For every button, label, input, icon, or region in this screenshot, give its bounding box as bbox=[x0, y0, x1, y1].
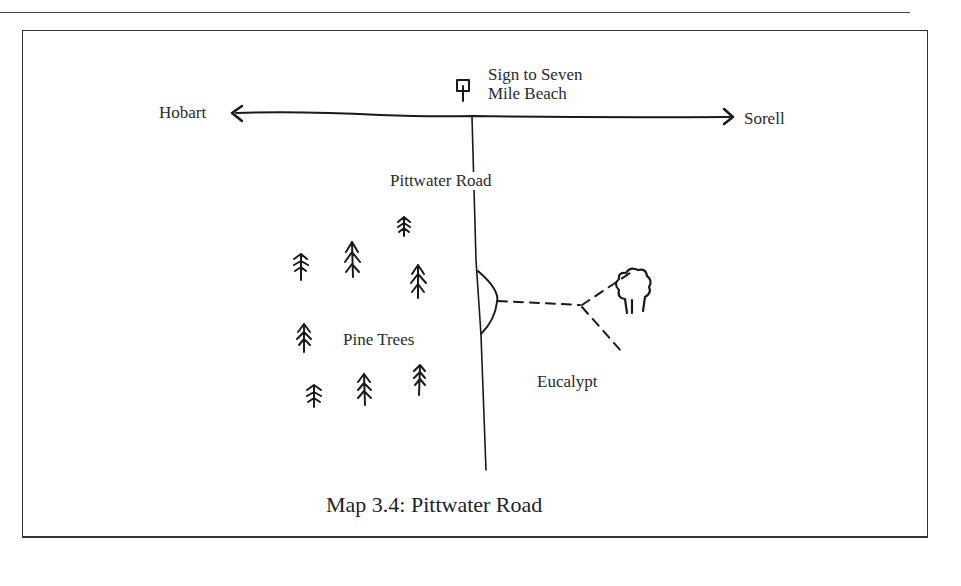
road-label: Pittwater Road bbox=[390, 172, 493, 190]
sign-icon bbox=[457, 80, 469, 101]
destination-sorell: Sorell bbox=[744, 110, 785, 128]
pine-tree-icon bbox=[294, 217, 426, 407]
sign-label-line1: Sign to Seven bbox=[488, 66, 582, 84]
track-dashed-line bbox=[498, 301, 580, 305]
east-west-road bbox=[236, 112, 730, 117]
pittwater-road bbox=[472, 117, 486, 470]
sign-label-line2: Mile Beach bbox=[488, 85, 567, 103]
eucalypt-tree-icon bbox=[616, 269, 651, 313]
eucalypt-label: Eucalypt bbox=[537, 373, 597, 391]
destination-hobart: Hobart bbox=[159, 104, 206, 122]
track-dashed-line-se bbox=[582, 307, 622, 352]
map-caption: Map 3.4: Pittwater Road bbox=[326, 492, 542, 518]
pine-trees-label: Pine Trees bbox=[343, 331, 414, 349]
